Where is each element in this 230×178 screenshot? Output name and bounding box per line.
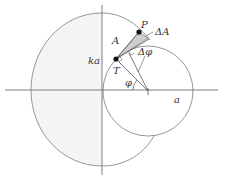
label-ka: ka — [88, 55, 100, 66]
involute-area-diagram: P ΔA A ka T Δφ φ a — [0, 0, 230, 178]
label-a-area: A — [111, 35, 119, 46]
label-a-radius: a — [174, 94, 180, 105]
point-p — [136, 29, 141, 34]
delta-a-leader — [146, 32, 153, 36]
outer-region-shade — [31, 13, 102, 166]
label-phi: φ — [125, 77, 132, 88]
label-delta-a: ΔA — [154, 26, 169, 37]
label-p: P — [140, 19, 148, 30]
label-delta-phi: Δφ — [137, 46, 152, 57]
point-t — [113, 56, 118, 61]
